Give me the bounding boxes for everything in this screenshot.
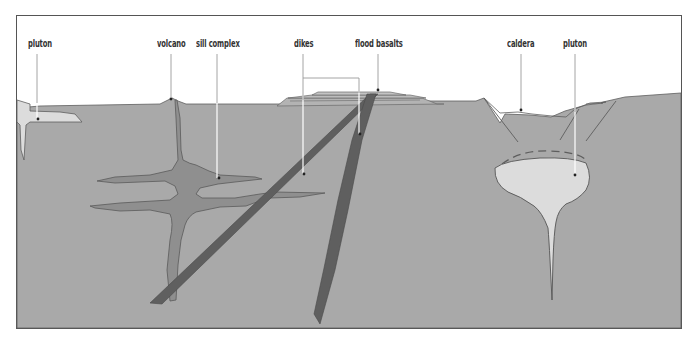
label-caldera: caldera bbox=[507, 37, 534, 49]
label-pluton-right: pluton bbox=[563, 37, 587, 49]
geology-cross-section bbox=[0, 0, 696, 342]
label-volcano: volcano bbox=[157, 37, 186, 49]
label-dikes: dikes bbox=[294, 37, 313, 49]
label-sill-complex: sill complex bbox=[196, 37, 240, 49]
label-pluton-left: pluton bbox=[28, 37, 52, 49]
label-flood-basalts: flood basalts bbox=[355, 37, 403, 49]
